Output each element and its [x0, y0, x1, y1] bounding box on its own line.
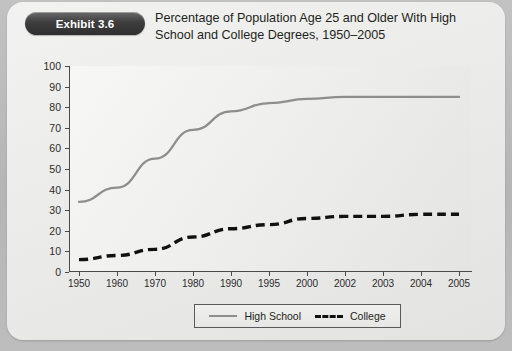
chart-legend: High School College	[194, 304, 401, 328]
x-axis-tick	[345, 272, 346, 276]
y-axis-tick-label: 40	[31, 184, 61, 196]
exhibit-page: Exhibit 3.6 Percentage of Population Age…	[0, 0, 512, 351]
x-axis-tick	[193, 272, 194, 276]
x-axis-tick	[383, 272, 384, 276]
y-axis-tick-label: 80	[31, 101, 61, 113]
x-axis-tick	[421, 272, 422, 276]
chart: 1009080706050403020100 19501960197019801…	[27, 54, 489, 336]
x-axis-tick	[269, 272, 270, 276]
series-line-high-school	[79, 97, 459, 202]
x-axis-tick	[117, 272, 118, 276]
legend-item-high-school: High School	[209, 310, 301, 322]
x-axis-tick-label: 2003	[363, 278, 403, 289]
x-axis-tick	[459, 272, 460, 276]
y-axis-tick-label: 60	[31, 142, 61, 154]
y-axis-tick	[65, 272, 69, 273]
y-axis-tick-label: 10	[31, 245, 61, 257]
exhibit-card: Exhibit 3.6 Percentage of Population Age…	[7, 2, 505, 340]
x-axis-tick-label: 1950	[59, 278, 99, 289]
exhibit-badge-label: Exhibit 3.6	[56, 18, 115, 30]
y-axis-tick-label: 90	[31, 81, 61, 93]
x-axis-tick	[155, 272, 156, 276]
x-axis-tick	[231, 272, 232, 276]
series-line-college	[79, 214, 459, 259]
y-axis-tick-label: 100	[31, 60, 61, 72]
y-axis-labels: 1009080706050403020100	[27, 66, 61, 272]
x-axis-tick	[79, 272, 80, 276]
x-axis-tick	[307, 272, 308, 276]
x-axis-tick-label: 2000	[287, 278, 327, 289]
x-axis-tick-label: 1970	[135, 278, 175, 289]
x-axis-tick-label: 2004	[401, 278, 441, 289]
legend-swatch-dashed-icon	[315, 315, 343, 318]
y-axis-tick-label: 70	[31, 122, 61, 134]
legend-label-high-school: High School	[244, 310, 301, 322]
exhibit-badge: Exhibit 3.6	[25, 12, 145, 35]
exhibit-title: Percentage of Population Age 25 and Olde…	[155, 10, 485, 43]
x-axis-tick-label: 2002	[325, 278, 365, 289]
x-axis-tick-label: 1990	[211, 278, 251, 289]
x-axis-tick-label: 1960	[97, 278, 137, 289]
legend-item-college: College	[315, 310, 386, 322]
y-axis-tick-label: 30	[31, 204, 61, 216]
legend-swatch-solid-icon	[209, 315, 237, 317]
x-axis-tick-label: 2005	[439, 278, 479, 289]
y-axis-tick-label: 50	[31, 163, 61, 175]
x-axis-tick-label: 1995	[249, 278, 289, 289]
series-lines	[69, 66, 471, 272]
y-axis-tick-label: 0	[31, 266, 61, 278]
y-axis-tick-label: 20	[31, 225, 61, 237]
legend-label-college: College	[350, 310, 386, 322]
x-axis-tick-label: 1980	[173, 278, 213, 289]
